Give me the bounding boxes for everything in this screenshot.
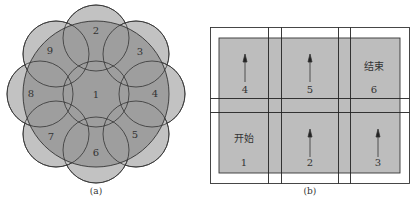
cell-label-6: 6: [371, 84, 377, 95]
cell-label-3: 3: [375, 157, 381, 168]
caption-b: (b): [304, 186, 317, 196]
label-5: 5: [132, 129, 138, 140]
label-1: 1: [93, 89, 99, 100]
panel-a-overlap-diagram: 1 2 3 4 5 6 7 8 9 (a): [7, 5, 185, 196]
label-7: 7: [48, 131, 54, 142]
cell-label-4: 4: [242, 84, 248, 95]
start-text: 开始: [234, 132, 254, 144]
label-8: 8: [28, 88, 34, 99]
panel-b-grid-diagram: 4 5 6 结束 开始 1 2 3 (b): [211, 28, 410, 197]
label-4: 4: [152, 88, 158, 99]
end-text: 结束: [364, 60, 384, 72]
label-3: 3: [137, 46, 143, 57]
figure: 1 2 3 4 5 6 7 8 9 (a): [0, 0, 411, 205]
label-6: 6: [93, 147, 99, 158]
label-2: 2: [93, 25, 99, 36]
caption-a: (a): [90, 186, 102, 196]
cell-label-1: 1: [241, 157, 247, 168]
cell-label-2: 2: [307, 157, 313, 168]
cell-label-5: 5: [307, 84, 313, 95]
label-9: 9: [47, 45, 53, 56]
